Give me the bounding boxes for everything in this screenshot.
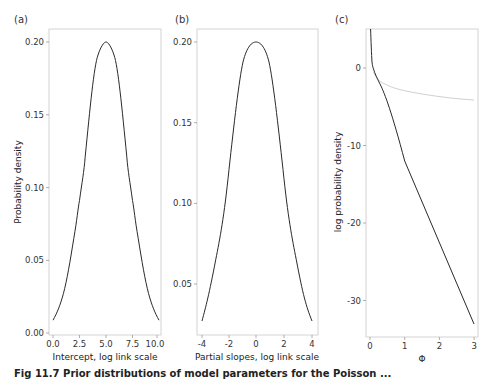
xtick-label: 10.0 (146, 339, 165, 349)
panel-b-density-curve (202, 42, 312, 321)
panel-b-xaxis: -4 -2 0 2 4 Partial slopes, log link sca… (195, 335, 320, 362)
ytick-label: 0.00 (25, 328, 44, 338)
panel-a-density-curve (53, 42, 159, 320)
ytick-label: 0.20 (25, 37, 44, 47)
xtick-label: 2 (437, 341, 442, 351)
panel-b-xlabel: Partial slopes, log link scale (195, 352, 320, 362)
xtick-label: 0.0 (46, 339, 60, 349)
xtick-label: 5.0 (99, 339, 113, 349)
ytick-label: 0.10 (173, 198, 192, 208)
xtick-label: 2 (281, 339, 286, 349)
ytick-label: -10 (347, 141, 361, 151)
panel-a-xaxis: 0.0 2.5 5.0 7.5 10.0 Intercept, log link… (46, 335, 164, 362)
xtick-label: 0 (367, 341, 372, 351)
figure-caption: Fig 11.7 Prior distributions of model pa… (14, 368, 391, 379)
panel-c-dark-curve (371, 29, 474, 324)
xtick-label: 7.5 (126, 339, 140, 349)
xtick-label: -2 (225, 339, 233, 349)
panel-c-label: (c) (335, 14, 348, 25)
ytick-label: 0.15 (25, 110, 44, 120)
panel-a-label: (a) (14, 14, 28, 25)
panel-b-yaxis: 0.20 0.15 0.10 0.05 (173, 37, 197, 289)
ytick-label: 0.05 (173, 279, 192, 289)
panel-a-ylabel: Probability density (13, 140, 23, 224)
ytick-label: 0.15 (173, 118, 192, 128)
ytick-label: -20 (347, 218, 361, 228)
xtick-label: -4 (198, 339, 206, 349)
ytick-label: -30 (347, 296, 361, 306)
xtick-label: 0 (253, 339, 258, 349)
panel-b-label: (b) (175, 14, 189, 25)
xtick-label: 4 (309, 339, 314, 349)
xtick-label: 1 (402, 341, 407, 351)
ytick-label: 0.20 (173, 37, 192, 47)
panel-a-yaxis: 0.20 0.15 0.10 0.05 0.00 Probability den… (13, 37, 49, 338)
ytick-label: 0 (356, 63, 361, 73)
panel-a-xlabel: Intercept, log link scale (53, 352, 158, 362)
xtick-label: 3 (471, 341, 476, 351)
ytick-label: 0.05 (25, 255, 44, 265)
panel-c-xaxis: 0 1 2 3 Φ (367, 337, 477, 364)
panel-b-frame (197, 29, 318, 335)
panel-a-frame (49, 29, 161, 335)
panel-c-xlabel: Φ (418, 354, 425, 364)
panel-b: (b) 0.20 0.15 0.10 0.05 -4 -2 0 2 4 Part… (173, 14, 319, 362)
panel-c-light-curve (374, 72, 475, 100)
panel-c-yaxis: 0 -10 -20 -30 log probability density (333, 63, 366, 306)
panel-c-frame (366, 29, 478, 337)
panel-a: (a) 0.20 0.15 0.10 0.05 0.00 Probability… (13, 14, 164, 362)
panel-c: (c) 0 -10 -20 -30 log probability densit… (333, 14, 478, 364)
panel-c-ylabel: log probability density (333, 131, 343, 232)
xtick-label: 2.5 (73, 339, 87, 349)
ytick-label: 0.10 (25, 183, 44, 193)
